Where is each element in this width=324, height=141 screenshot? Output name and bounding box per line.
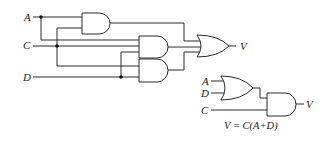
left-circuit: A C D V [22,11,248,83]
input-label-d: D [22,71,31,83]
junction-a [39,15,43,19]
input-label-a-small: A [201,75,209,87]
junction-d [119,75,123,79]
and-gate-3 [139,59,168,82]
input-label-d-small: D [200,87,209,99]
wire-and3-out [168,52,200,70]
or-gate [197,35,229,57]
output-label-v-small: V [306,98,314,110]
or-gate-small [221,76,253,100]
and-gate-small [267,93,296,116]
and-gate-2 [139,36,168,58]
input-label-c: C [23,39,31,51]
wire-d-branch [121,52,139,77]
wire-or-small-out [253,88,267,98]
output-label-v: V [240,40,248,52]
input-label-a: A [23,11,31,23]
right-circuit: A D C V V = C(A+D) [200,75,314,132]
and-gate-1 [82,13,110,34]
junction-c [55,44,59,48]
equation: V = C(A+D) [224,120,278,132]
input-label-c-small: C [201,104,209,116]
logic-diagram: A C D V A D C [0,0,324,141]
